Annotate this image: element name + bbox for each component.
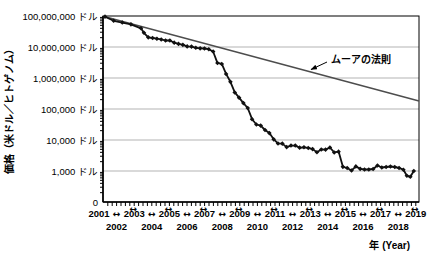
x-year-label-odd: 2009 <box>229 208 250 219</box>
y-tick-label: 1,000 ドル <box>52 166 98 177</box>
data-point-marker <box>155 36 160 41</box>
x-year-label-even: 2010 <box>247 221 268 232</box>
year-span-arrow-inline: ↔ <box>183 209 191 219</box>
x-year-label-odd: 2001 <box>88 208 110 219</box>
year-span-arrow-inline: ↔ <box>359 209 367 219</box>
data-point-marker <box>181 43 186 48</box>
year-span-arrow-inline: ↔ <box>289 209 297 219</box>
year-span-arrow-inline: ↔ <box>113 209 121 219</box>
x-year-label-odd: 2003 <box>124 208 145 219</box>
data-point-marker <box>185 44 190 49</box>
x-year-label-odd: 2013 <box>300 208 321 219</box>
data-point-marker <box>388 164 393 169</box>
y-tick-label: 0 <box>93 197 98 208</box>
y-axis-title: 価格（米ドル／ヒトゲノム） <box>3 44 15 175</box>
data-point-marker <box>306 146 311 151</box>
data-point-marker <box>159 37 164 42</box>
x-year-label-odd: 2015 <box>335 208 357 219</box>
data-point-marker <box>176 42 181 47</box>
moores-law-label: ムーアの法則 <box>331 53 391 65</box>
y-tick-label: 10,000 ドル <box>46 135 98 146</box>
data-point-marker <box>341 165 346 170</box>
data-point-marker <box>163 38 168 43</box>
x-year-label-even: 2018 <box>388 221 409 232</box>
y-tick-label: 1,000,000 ドル <box>33 73 98 84</box>
data-point-marker <box>336 149 341 154</box>
x-year-label-even: 2002 <box>106 221 127 232</box>
x-axis-title: 年 (Year) <box>369 239 410 251</box>
x-year-label-even: 2006 <box>176 221 197 232</box>
data-series-line <box>105 17 414 177</box>
y-tick-label: 100,000 ドル <box>41 104 98 115</box>
x-year-label-odd: 2007 <box>194 208 215 219</box>
data-point-marker <box>302 145 307 150</box>
year-span-arrow-inline: ↔ <box>148 209 156 219</box>
x-year-label-even: 2016 <box>352 221 373 232</box>
data-point-marker <box>150 36 155 41</box>
x-year-label-odd: 2005 <box>159 208 181 219</box>
data-point-marker <box>289 143 294 148</box>
data-point-marker <box>194 46 199 51</box>
y-tick-label: 100,000,000 ドル <box>23 11 98 22</box>
year-span-arrow-inline: ↔ <box>254 209 262 219</box>
x-year-label-even: 2008 <box>212 221 233 232</box>
year-span-arrow-inline: ↔ <box>394 209 402 219</box>
genome-sequencing-cost-chart: 100,000,000 ドル10,000,000 ドル1,000,000 ドル1… <box>0 0 435 258</box>
moores-law-annotation-arrow <box>311 62 327 70</box>
x-year-label-even: 2004 <box>141 221 163 232</box>
x-year-label-odd: 2017 <box>370 208 391 219</box>
y-tick-label: 10,000,000 ドル <box>28 42 98 53</box>
chart-plot-area: 100,000,000 ドル10,000,000 ドル1,000,000 ドル1… <box>0 0 435 258</box>
data-point-marker <box>384 165 389 170</box>
x-year-label-even: 2012 <box>282 221 303 232</box>
year-span-arrow-inline: ↔ <box>218 209 226 219</box>
data-point-marker <box>397 166 402 171</box>
data-point-marker <box>392 165 397 170</box>
data-point-marker <box>215 61 220 66</box>
data-point-marker <box>189 44 194 49</box>
x-year-label-odd: 2019 <box>405 208 426 219</box>
x-year-label-odd: 2011 <box>265 208 286 219</box>
year-span-arrow-inline: ↔ <box>324 209 332 219</box>
x-year-label-even: 2014 <box>317 221 339 232</box>
